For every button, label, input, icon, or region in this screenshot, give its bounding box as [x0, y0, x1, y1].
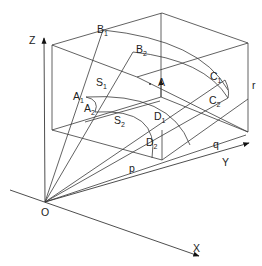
- label-S1: S1: [96, 76, 107, 90]
- geometry-diagram: Z Y X O p q r A A1 A2 B1 B2 C1 C2 D1 D2 …: [0, 0, 262, 266]
- label-S2: S2: [114, 114, 125, 128]
- dot: [149, 83, 151, 85]
- label-A: A: [158, 76, 165, 88]
- dim-r: r: [252, 79, 256, 91]
- y-axis: [45, 143, 249, 202]
- z-label: Z: [29, 34, 36, 46]
- arcs: [86, 30, 229, 158]
- x-axis: [10, 190, 199, 256]
- y-label: Y: [222, 156, 229, 168]
- label-B2: B2: [136, 43, 147, 57]
- x-label: X: [193, 242, 200, 254]
- labels: Z Y X O p q r A A1 A2 B1 B2 C1 C2 D1 D2 …: [29, 23, 256, 254]
- label-D2: D2: [146, 136, 158, 150]
- z-axis: [44, 38, 45, 202]
- origin-label: O: [41, 206, 49, 218]
- label-B1: B1: [97, 23, 108, 37]
- label-A2: A2: [84, 102, 95, 116]
- dim-q: q: [213, 138, 219, 150]
- label-C1: C1: [210, 70, 222, 84]
- dim-p: p: [129, 162, 135, 174]
- label-C2: C2: [209, 94, 221, 108]
